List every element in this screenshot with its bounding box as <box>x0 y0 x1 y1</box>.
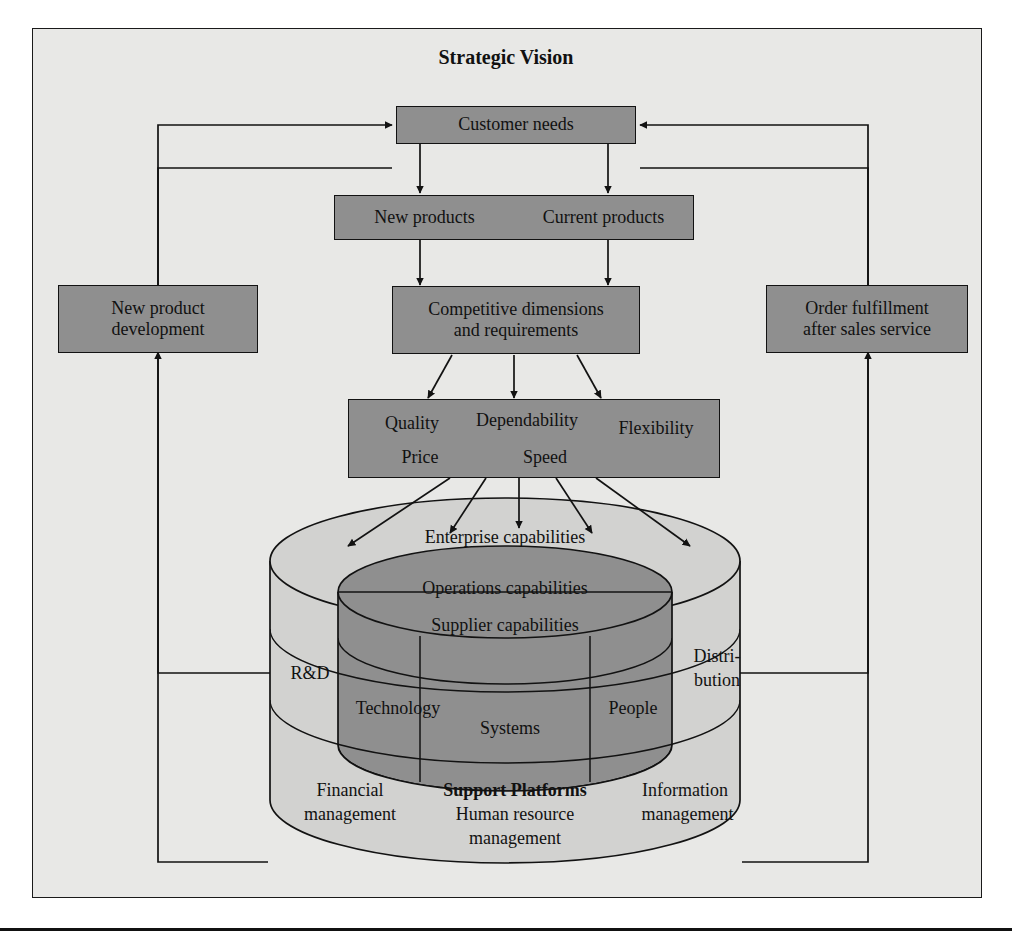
label-distribution-line1: Distri- <box>672 646 762 667</box>
label-operations-capabilities: Operations capabilities <box>355 578 655 599</box>
label-enterprise-capabilities: Enterprise capabilities <box>355 527 655 548</box>
label-price: Price <box>380 447 460 468</box>
label-hr-line2: management <box>425 828 605 849</box>
box-competitive-dimensions[interactable]: Competitive dimensions and requirements <box>392 286 640 354</box>
box-current-products-label: Current products <box>543 207 664 228</box>
box-of-label-line1: Order fulfillment <box>805 298 928 319</box>
label-information-line1: Information <box>610 780 760 801</box>
label-rd: R&D <box>270 663 350 684</box>
box-new-product-development[interactable]: New product development <box>58 285 258 353</box>
page-title: Strategic Vision <box>0 46 1012 69</box>
feedback-right-of <box>742 352 868 862</box>
box-order-fulfillment[interactable]: Order fulfillment after sales service <box>766 285 968 353</box>
diagram-canvas: Strategic Vision Customer needs New prod… <box>0 0 1012 944</box>
box-competitive-line2: and requirements <box>454 320 578 341</box>
box-customer-needs[interactable]: Customer needs <box>396 106 636 144</box>
feedback-left-npd <box>158 352 268 862</box>
label-flexibility: Flexibility <box>596 418 716 439</box>
label-financial-line1: Financial <box>285 780 415 801</box>
label-speed: Speed <box>500 447 590 468</box>
label-quality: Quality <box>362 413 462 434</box>
label-financial-line2: management <box>275 804 425 825</box>
label-technology: Technology <box>333 698 463 719</box>
page-bottom-rule <box>0 928 1012 931</box>
box-current-products[interactable]: Current products <box>514 195 694 240</box>
box-competitive-line1: Competitive dimensions <box>428 299 604 320</box>
box-npd-label-line1: New product <box>111 298 204 319</box>
box-new-products-label: New products <box>374 207 474 228</box>
label-people: People <box>578 698 688 719</box>
label-distribution-line2: bution <box>672 670 762 691</box>
label-systems: Systems <box>455 718 565 739</box>
label-supplier-capabilities: Supplier capabilities <box>360 615 650 636</box>
arrow-competitive-to-dims-right <box>577 355 601 398</box>
label-information-line2: management <box>605 804 770 825</box>
box-npd-label-line2: development <box>112 319 205 340</box>
arrow-competitive-to-dims-left <box>428 355 452 398</box>
box-customer-needs-label: Customer needs <box>458 114 573 135</box>
label-hr-line1: Human resource <box>425 804 605 825</box>
label-dependability: Dependability <box>452 410 602 431</box>
box-of-label-line2: after sales service <box>803 319 931 340</box>
box-new-products[interactable]: New products <box>334 195 514 240</box>
label-support-platforms: Support Platforms <box>425 780 605 801</box>
